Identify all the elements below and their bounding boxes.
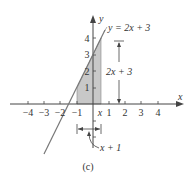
width-label: x + 1 — [99, 142, 121, 153]
x-tick-label: 3 — [139, 107, 144, 118]
diagram: −4 −3 −2 −1 1 2 3 4 x 1 2 3 4 y x y = 2x… — [0, 0, 190, 180]
height-label: 2x + 3 — [106, 66, 132, 77]
figure-caption: (c) — [82, 161, 93, 173]
equation-label: y = 2x + 3 — [107, 22, 150, 33]
x-axis-label: x — [177, 91, 183, 102]
x-tick-label: 2 — [123, 107, 128, 118]
width-dimension — [77, 124, 101, 148]
y-tick-label: 1 — [85, 82, 90, 93]
x-tick-label: −1 — [72, 107, 83, 118]
equation-leader — [104, 27, 107, 32]
x-tick-label: 1 — [107, 107, 112, 118]
y-tick-label: 2 — [85, 66, 90, 77]
x-marker-label: x — [97, 107, 103, 118]
y-axis-label: y — [98, 13, 104, 24]
x-tick-label: −3 — [39, 107, 50, 118]
x-tick-label: 4 — [156, 107, 161, 118]
x-tick-label: −2 — [55, 107, 66, 118]
y-tick-label: 3 — [85, 49, 90, 60]
y-tick-label: 4 — [85, 33, 90, 44]
x-tick-label: −4 — [23, 107, 34, 118]
y-axis-arrow-icon — [90, 15, 96, 23]
